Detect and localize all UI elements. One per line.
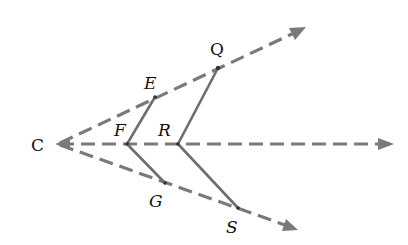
upper-ray: [60, 33, 294, 143]
point-E: [153, 95, 157, 99]
geometry-diagram: C E F G Q R S: [0, 0, 408, 245]
label-S: S: [226, 217, 238, 237]
lower-ray-arrowhead-icon: [282, 219, 298, 231]
label-G: G: [149, 191, 163, 211]
label-R: R: [157, 120, 171, 140]
lower-ray: [60, 145, 285, 225]
label-F: F: [113, 120, 127, 140]
point-S: [236, 206, 240, 210]
point-Q: [216, 66, 220, 70]
diagram-svg: C E F G Q R S: [0, 0, 408, 245]
segment-QRS: [178, 68, 238, 208]
point-F: [125, 142, 129, 146]
label-C: C: [31, 135, 44, 155]
label-Q: Q: [210, 39, 224, 59]
point-R: [176, 142, 180, 146]
point-G: [163, 181, 167, 185]
middle-ray-arrowhead-icon: [378, 138, 394, 150]
label-E: E: [143, 73, 157, 93]
vertex-c-arrowhead-icon: [55, 138, 70, 150]
